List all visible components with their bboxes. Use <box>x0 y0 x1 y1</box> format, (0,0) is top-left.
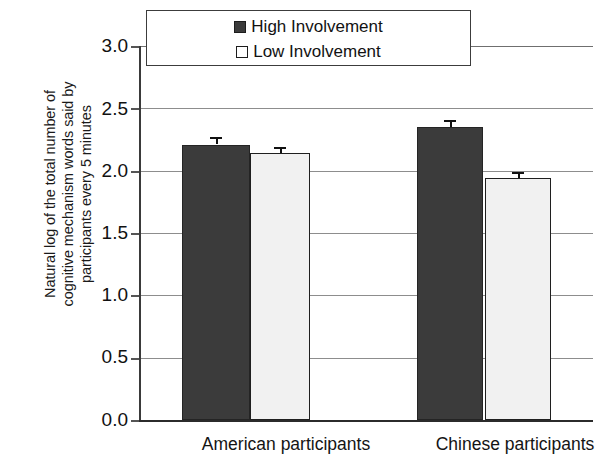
x-label-chinese-participants: Chinese participants <box>420 434 599 454</box>
y-tick-label-0-5: 0.5 <box>76 347 128 366</box>
error-bar-cap-american-high-involvement <box>210 137 222 139</box>
bar-american-high-involvement <box>182 145 250 421</box>
gridline-2-5 <box>140 108 593 109</box>
y-tick-label-1-5: 1.5 <box>76 223 128 242</box>
y-tick-label-2-5: 2.5 <box>76 99 128 118</box>
x-axis-line <box>139 420 593 422</box>
y-tick-label-0-0: 0.0 <box>76 410 128 429</box>
bar-chinese-high-involvement <box>417 127 483 420</box>
plot-area <box>140 46 593 420</box>
y-axis-title-line-1: Natural log of the total number of <box>41 90 59 298</box>
y-axis-tick-labels: 3.0 2.5 2.0 1.5 1.0 0.5 0.0 <box>70 0 128 464</box>
y-axis-line <box>139 46 141 420</box>
bar-american-low-involvement <box>250 153 310 420</box>
legend-entry-low-involvement: Low Involvement <box>147 39 470 64</box>
legend-label-low-involvement: Low Involvement <box>253 42 381 61</box>
x-axis-category-labels: American participants Chinese participan… <box>140 434 593 462</box>
bar-chinese-low-involvement <box>485 178 551 420</box>
error-bar-cap-american-low-involvement <box>274 147 286 149</box>
legend-label-high-involvement: High Involvement <box>251 17 382 36</box>
legend-entry-high-involvement: High Involvement <box>147 14 470 39</box>
chart-legend: High Involvement Low Involvement <box>146 10 471 66</box>
error-bar-cap-chinese-high-involvement <box>444 120 456 122</box>
y-tick-label-1-0: 1.0 <box>76 285 128 304</box>
filled-square-icon <box>234 21 246 33</box>
y-tick-label-3-0: 3.0 <box>76 36 128 55</box>
x-label-american-participants: American participants <box>186 434 386 454</box>
error-bar-cap-chinese-low-involvement <box>512 172 524 174</box>
y-tick-label-2-0: 2.0 <box>76 161 128 180</box>
open-square-icon <box>236 46 248 58</box>
